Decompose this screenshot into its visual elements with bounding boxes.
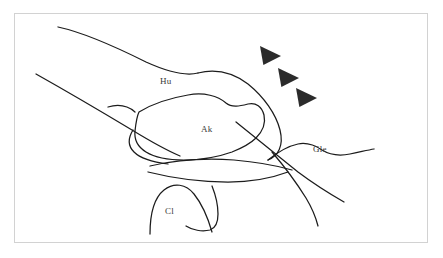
joint-line-upper-contour [150,159,292,170]
joint-line-lower-contour [148,172,288,182]
figure-root: Hu Ak Gle Cl [0,0,443,258]
acromion-spine-contour [108,106,135,112]
humeral-head-arc-contour [198,71,281,160]
anatomical-drawing-canvas [0,0,443,258]
label-acromion: Ak [201,124,213,134]
arrowhead-2-icon [278,68,299,87]
clavicle-inferior-contour [186,186,218,231]
arrowhead-marker-group [260,46,317,107]
humeral-shaft-superior-contour [58,27,198,74]
label-humerus: Hu [160,76,172,86]
label-glenoid: Gle [313,144,327,154]
label-clavicle: Cl [165,206,174,216]
clavicle-arch-contour [150,185,212,234]
scapula-lateral-border-contour [272,152,318,226]
arrowhead-3-icon [296,88,317,107]
arrowhead-1-icon [260,46,281,65]
acromion-outline-contour [135,94,265,160]
humeral-shaft-inferior-contour [36,74,180,156]
